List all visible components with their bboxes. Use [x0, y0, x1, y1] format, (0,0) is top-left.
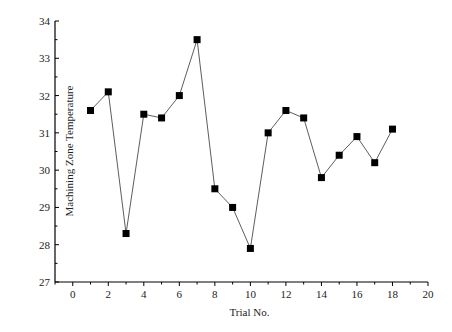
data-point-marker [87, 107, 94, 114]
data-point-marker [176, 92, 183, 99]
x-tick-label: 16 [351, 288, 363, 300]
data-point-marker [140, 111, 147, 118]
y-axis-label: Machining Zone Temperature [63, 86, 75, 217]
x-tick-label: 2 [106, 288, 112, 300]
data-point-marker [247, 245, 254, 252]
data-point-marker [265, 129, 272, 136]
x-tick-label: 20 [423, 288, 435, 300]
data-point-marker [123, 230, 130, 237]
x-tick-label: 8 [212, 288, 218, 300]
x-tick-label: 10 [245, 288, 257, 300]
data-line [91, 40, 393, 249]
y-tick-label: 28 [39, 239, 51, 251]
data-point-marker [318, 174, 325, 181]
data-point-marker [282, 107, 289, 114]
data-point-marker [300, 114, 307, 121]
data-point-marker [371, 159, 378, 166]
y-tick-label: 31 [39, 127, 50, 139]
y-tick-label: 34 [39, 15, 51, 27]
y-tick-label: 32 [39, 90, 50, 102]
x-tick-label: 0 [70, 288, 76, 300]
data-point-marker [211, 185, 218, 192]
data-point-marker [194, 36, 201, 43]
data-point-marker [353, 133, 360, 140]
data-point-marker [158, 114, 165, 121]
x-tick-label: 4 [141, 288, 147, 300]
y-tick-label: 33 [39, 52, 51, 64]
x-tick-label: 14 [316, 288, 328, 300]
x-tick-label: 12 [280, 288, 291, 300]
y-tick-label: 29 [39, 201, 51, 213]
x-axis-label: Trial No. [230, 306, 270, 318]
data-point-marker [229, 204, 236, 211]
y-tick-label: 27 [39, 276, 51, 288]
data-point-marker [336, 152, 343, 159]
y-tick-label: 30 [39, 164, 51, 176]
data-point-marker [389, 126, 396, 133]
x-tick-label: 6 [177, 288, 183, 300]
data-point-marker [105, 88, 112, 95]
x-tick-label: 18 [387, 288, 399, 300]
